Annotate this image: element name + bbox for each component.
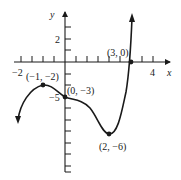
y-axis-label: y	[49, 9, 55, 20]
point-3-0	[129, 60, 134, 65]
point-2-neg6	[107, 132, 112, 137]
point-label-neg1-neg2: (−1, −2)	[26, 71, 59, 83]
x-tick-label-neg2: −2	[12, 67, 23, 78]
left-end-arrow-icon	[15, 116, 21, 124]
point-neg1-neg2	[41, 83, 46, 88]
y-axis-ticks	[65, 27, 71, 172]
point-label-3-0: (3, 0)	[107, 47, 129, 59]
y-tick-label-2: 2	[55, 34, 60, 45]
right-end-arrow-icon	[129, 13, 135, 22]
x-axis-label: x	[166, 67, 172, 78]
x-tick-label-4: 4	[150, 67, 155, 78]
point-label-0-neg3: (0, −3)	[67, 85, 94, 97]
function-graph: −2 4 x y 2 −5	[0, 0, 181, 180]
point-label-2-neg6: (2, −6)	[99, 141, 126, 153]
y-tick-label-neg5: −5	[49, 92, 60, 103]
